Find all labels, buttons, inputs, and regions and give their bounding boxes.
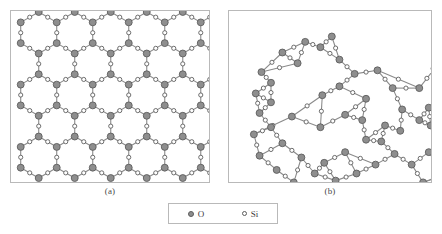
silicon-atom <box>28 15 32 19</box>
oxygen-atom <box>279 140 286 147</box>
silicon-atom <box>358 156 362 160</box>
oxygen-atom <box>143 11 150 15</box>
silicon-atom <box>154 140 158 144</box>
silicon-atom <box>46 46 50 50</box>
silicon-atom <box>118 46 122 50</box>
panel-amorphous-silica <box>228 10 432 183</box>
oxygen-atom-group <box>17 11 209 182</box>
legend-entry-oxygen: O <box>188 209 205 219</box>
oxygen-atom <box>89 19 96 26</box>
silicon-atom <box>172 140 176 144</box>
silicon-atom <box>73 62 77 66</box>
silicon-atom <box>345 65 349 69</box>
silicon-atom <box>100 171 104 175</box>
oxygen-atom <box>17 102 24 109</box>
oxygen-atom <box>53 19 60 26</box>
silicon-atom <box>127 31 131 35</box>
silicon-atom <box>404 86 408 90</box>
oxygen-atom <box>71 71 78 78</box>
silicon-atom <box>260 129 264 133</box>
silicon-atom <box>154 15 158 19</box>
oxygen-atom <box>35 11 42 15</box>
oxygen-atom <box>143 50 150 57</box>
silicon-atom <box>328 51 332 55</box>
silicon-atom <box>261 96 265 100</box>
silicon-atom <box>401 157 405 161</box>
oxygen-atom <box>161 19 168 26</box>
oxygen-atom <box>252 90 259 97</box>
oxygen-atom <box>382 122 389 129</box>
oxygen-atom <box>71 175 78 182</box>
silicon-atom <box>136 171 140 175</box>
oxygen-atom <box>317 44 324 51</box>
oxygen-atom <box>321 159 328 166</box>
silicon-atom <box>270 60 274 64</box>
silicon-atom <box>172 109 176 113</box>
silicon-atom <box>46 109 50 113</box>
silicon-atom <box>118 15 122 19</box>
oxygen-atom <box>89 81 96 88</box>
oxygen-atom <box>53 143 60 150</box>
silicon-atom <box>305 104 309 108</box>
oxygen-atom <box>353 170 360 177</box>
oxygen-atom <box>179 133 186 140</box>
silicon-atom <box>354 105 358 109</box>
silicon-atom <box>288 56 292 60</box>
oxygen-atom <box>197 143 204 150</box>
oxygen-atom <box>161 40 168 47</box>
silicon-atom <box>172 15 176 19</box>
silicon-atom <box>28 140 32 144</box>
silicon-atom <box>208 140 209 144</box>
silicon-atom <box>55 155 59 159</box>
silicon-atom <box>55 31 59 35</box>
oxygen-atom <box>179 50 186 57</box>
oxygen-atom <box>311 170 318 177</box>
silicon-atom <box>306 163 310 167</box>
silicon-atom <box>55 93 59 97</box>
silicon-atom <box>383 157 387 161</box>
silicon-atom <box>64 140 68 144</box>
silicon-atom <box>277 66 281 70</box>
oxygen-atom <box>197 81 204 88</box>
oxygen-atom <box>143 175 150 182</box>
silicon-atom <box>190 109 194 113</box>
silicon-atom <box>317 166 321 170</box>
silicon-atom <box>423 121 427 125</box>
oxygen-atom <box>256 152 263 159</box>
silicon-atom <box>154 109 158 113</box>
oxygen-atom <box>372 161 379 168</box>
oxygen-atom <box>268 79 275 86</box>
silicon-atom <box>154 46 158 50</box>
oxygen-atom <box>17 19 24 26</box>
silicon-marker-icon <box>242 211 247 216</box>
oxygen-atom <box>336 56 343 63</box>
silicon-atom <box>64 46 68 50</box>
silicon-atom <box>263 106 267 110</box>
silicon-atom <box>37 62 41 66</box>
crystalline-lattice-svg <box>11 11 209 182</box>
oxygen-atom <box>179 175 186 182</box>
silicon-atom <box>422 112 426 116</box>
oxygen-atom <box>391 150 398 157</box>
oxygen-atom <box>71 112 78 119</box>
silicon-atom <box>136 77 140 81</box>
oxygen-atom <box>273 166 280 173</box>
silicon-atom <box>345 78 349 82</box>
silicon-atom <box>145 124 149 128</box>
oxygen-atom <box>35 133 42 140</box>
silicon-atom <box>46 171 50 175</box>
silicon-atom <box>136 140 140 144</box>
silicon-atom <box>109 62 113 66</box>
silicon-atom <box>256 101 260 105</box>
silicon-atom <box>64 77 68 81</box>
oxygen-atom <box>53 102 60 109</box>
silicon-atom <box>82 109 86 113</box>
silicon-atom <box>292 45 296 49</box>
oxygen-atom <box>317 124 324 131</box>
oxygen-atom <box>35 71 42 78</box>
oxygen-atom <box>416 117 423 124</box>
oxygen-atom <box>408 161 415 168</box>
silicon-atom <box>425 76 429 80</box>
oxygen-atom <box>161 81 168 88</box>
silicon-atom <box>100 77 104 81</box>
